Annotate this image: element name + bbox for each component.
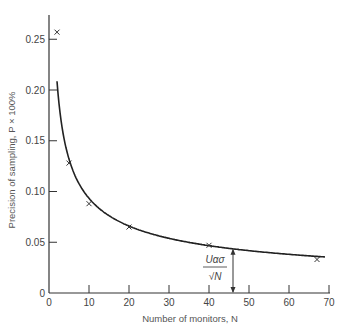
y-axis-label: Precision of sampling, P × 100% — [6, 91, 17, 228]
x-tick-label: 70 — [323, 297, 335, 308]
data-points — [55, 30, 320, 262]
y-ticks: 00.050.100.150.200.25 — [26, 34, 57, 299]
x-tick-label: 10 — [83, 297, 95, 308]
annotation-numerator: Uασ — [206, 254, 226, 265]
data-point-x-marker — [87, 201, 92, 206]
y-tick-label: 0.10 — [26, 186, 46, 197]
fitted-curve — [57, 81, 325, 257]
y-tick-label: 0.15 — [26, 135, 46, 146]
x-axis-label: Number of monitors, N — [142, 313, 238, 324]
x-tick-label: 40 — [203, 297, 215, 308]
annotation-arrow: Uασ √N — [203, 249, 236, 293]
x-tick-label: 60 — [283, 297, 295, 308]
data-point-x-marker — [315, 257, 320, 262]
y-tick-label: 0 — [39, 288, 45, 299]
annotation-denominator: √N — [209, 271, 222, 282]
x-tick-label: 0 — [46, 297, 52, 308]
chart: 010203040506070 00.050.100.150.200.25 Uα… — [0, 0, 345, 331]
y-tick-label: 0.05 — [26, 237, 46, 248]
x-ticks: 010203040506070 — [46, 285, 335, 308]
x-tick-label: 50 — [243, 297, 255, 308]
axes — [49, 15, 330, 293]
x-tick-label: 20 — [123, 297, 135, 308]
x-tick-label: 30 — [163, 297, 175, 308]
y-tick-label: 0.20 — [26, 85, 46, 96]
data-point-x-marker — [55, 30, 60, 35]
y-tick-label: 0.25 — [26, 34, 46, 45]
